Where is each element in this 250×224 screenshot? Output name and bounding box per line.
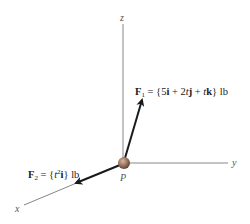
force-diagram: z y x P F1 = {5i + 2tj + tk} lb F2 = {t2… — [0, 0, 250, 224]
f1-vector-arrow — [125, 100, 142, 158]
particle-p — [118, 157, 130, 169]
f1-equation: F1 = {5i + 2tj + tk} lb — [135, 86, 228, 99]
z-axis-label: z — [119, 12, 124, 23]
point-label: P — [119, 172, 126, 183]
f2-equation: F2 = {t2i} lb — [28, 168, 79, 182]
y-axis-label: y — [231, 157, 237, 168]
f2-vector-arrow — [76, 165, 120, 183]
x-axis-label: x — [14, 203, 20, 214]
